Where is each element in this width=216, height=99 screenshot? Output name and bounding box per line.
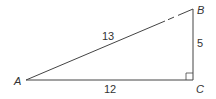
- side-bc-length: 5: [197, 37, 203, 49]
- side-ab: [26, 21, 165, 80]
- side-ac-length: 12: [104, 83, 116, 95]
- vertex-a-label: A: [13, 75, 21, 87]
- side-ab-dash: [168, 17, 174, 20]
- side-ab-end: [178, 9, 193, 15]
- triangle-diagram: A B C 13 12 5: [0, 0, 216, 99]
- vertex-b-label: B: [197, 4, 204, 16]
- vertex-c-label: C: [196, 83, 204, 95]
- side-ab-length: 13: [102, 30, 114, 42]
- right-angle-marker: [186, 73, 193, 80]
